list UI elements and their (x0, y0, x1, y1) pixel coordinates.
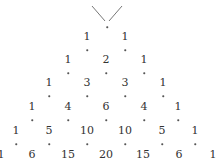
cell-r6-c5: 6 (176, 149, 183, 161)
cell-r4-c1: 4 (65, 101, 72, 113)
dot (124, 49, 126, 51)
dot (161, 143, 163, 145)
dot (48, 143, 50, 145)
cell-r3-c2: 3 (122, 77, 129, 89)
dot (124, 143, 126, 145)
cell-r3-c1: 3 (84, 77, 91, 89)
cell-r5-c2: 10 (80, 125, 94, 137)
cell-r2-c0: 1 (65, 54, 72, 66)
dot (86, 49, 88, 51)
dot (124, 95, 126, 97)
cell-r4-c3: 4 (141, 101, 148, 113)
dot (177, 119, 179, 121)
cell-r2-c2: 1 (141, 54, 148, 66)
dot (143, 72, 145, 74)
cell-r1-c1: 1 (122, 31, 129, 43)
cell-r5-c3: 10 (118, 125, 132, 137)
dot (143, 119, 145, 121)
cell-r6-c1: 6 (29, 149, 36, 161)
cell-r5-c1: 5 (46, 125, 53, 137)
cell-r4-c0: 1 (29, 101, 36, 113)
cell-r4-c2: 6 (103, 101, 110, 113)
dot (194, 143, 196, 145)
dot (86, 95, 88, 97)
cell-r4-c4: 1 (175, 101, 182, 113)
cell-r6-c3: 20 (99, 149, 113, 161)
dot (67, 72, 69, 74)
cell-r2-c1: 2 (103, 54, 110, 66)
apex-dot (106, 26, 108, 28)
cell-r3-c3: 1 (160, 77, 167, 89)
cell-r5-c0: 1 (13, 125, 20, 137)
dot (15, 143, 17, 145)
dot (105, 72, 107, 74)
cell-r6-c4: 15 (136, 149, 150, 161)
cell-r3-c0: 1 (46, 77, 53, 89)
dot (67, 119, 69, 121)
cell-r6-c0: 1 (0, 149, 5, 161)
pascal-triangle-diagram: 1 1 1 2 1 1 3 3 1 1 4 6 4 1 1 5 10 10 5 … (0, 0, 220, 166)
dot (31, 119, 33, 121)
cell-r5-c5: 1 (192, 125, 199, 137)
apex-v-lines (0, 0, 220, 166)
cell-r6-c2: 15 (61, 149, 75, 161)
dot (105, 119, 107, 121)
cell-r6-c6: 1 (210, 149, 217, 161)
dot (48, 95, 50, 97)
dot (162, 95, 164, 97)
dot (86, 143, 88, 145)
cell-r5-c4: 5 (159, 125, 166, 137)
cell-r1-c0: 1 (84, 31, 91, 43)
